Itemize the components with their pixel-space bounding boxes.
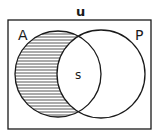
intersection-label: s	[75, 68, 81, 82]
universe-label: u	[76, 4, 85, 19]
venn-diagram: u A P s	[0, 0, 159, 137]
set-p-label: P	[135, 27, 143, 43]
set-a-label: A	[18, 27, 28, 43]
